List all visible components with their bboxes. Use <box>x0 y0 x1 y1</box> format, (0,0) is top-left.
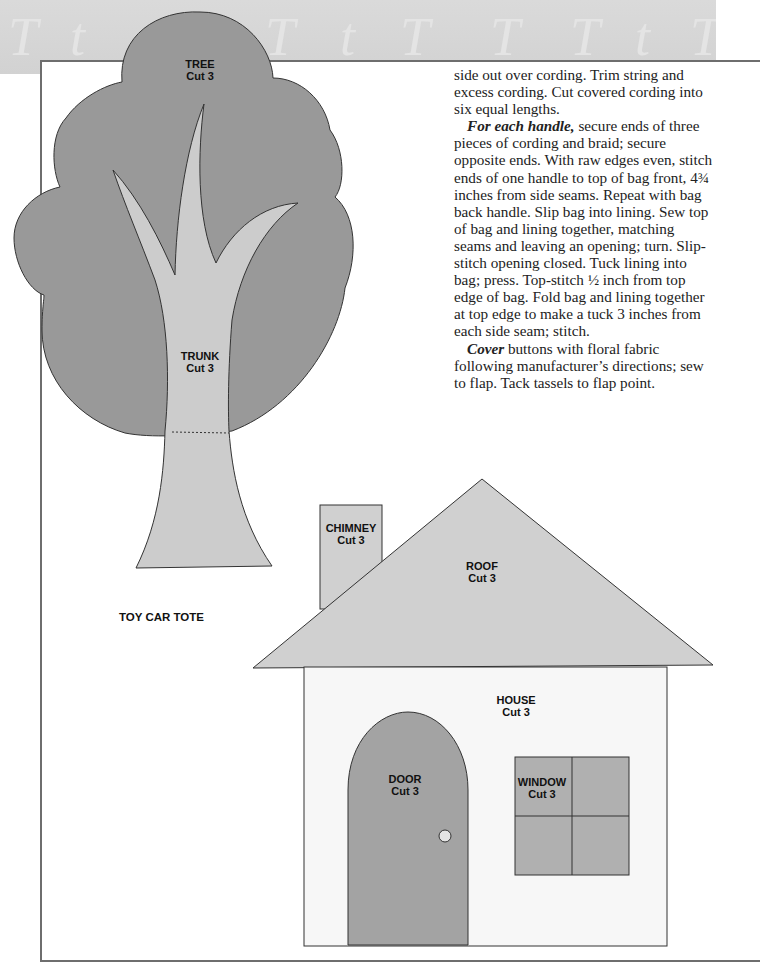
chimney-name: CHIMNEY <box>326 522 377 534</box>
instructions-lead-cover: Cover <box>467 340 504 357</box>
house-name: HOUSE <box>496 694 535 706</box>
window-label: WINDOW Cut 3 <box>518 776 566 800</box>
tree-name: TREE <box>185 58 214 70</box>
instructions-lead-handle: For each handle, <box>467 117 575 134</box>
instructions-body-handle: secure ends of three pieces of cording a… <box>454 117 712 339</box>
roof-instruction: Cut 3 <box>466 572 498 584</box>
roof-label: ROOF Cut 3 <box>466 560 498 584</box>
instructions-paragraph-2: For each handle, secure ends of three pi… <box>454 117 714 339</box>
tree-instruction: Cut 3 <box>185 70 214 82</box>
house-instruction: Cut 3 <box>496 706 535 718</box>
door-instruction: Cut 3 <box>389 785 422 797</box>
instructions-paragraph-1: side out over cording. Trim string and e… <box>454 66 714 117</box>
trunk-instruction: Cut 3 <box>181 362 220 374</box>
door-name: DOOR <box>389 773 422 785</box>
window-instruction: Cut 3 <box>518 788 566 800</box>
door-shape <box>348 712 468 945</box>
chimney-label: CHIMNEY Cut 3 <box>326 522 377 546</box>
instructions-text: side out over cording. Trim string and e… <box>454 66 714 391</box>
roof-name: ROOF <box>466 560 498 572</box>
trunk-name: TRUNK <box>181 350 220 362</box>
door-label: DOOR Cut 3 <box>389 773 422 797</box>
house-label: HOUSE Cut 3 <box>496 694 535 718</box>
chimney-instruction: Cut 3 <box>326 534 377 546</box>
page-title: TOY CAR TOTE <box>119 611 204 623</box>
instructions-paragraph-3: Cover buttons with floral fabric followi… <box>454 340 714 391</box>
door-knob-shape <box>439 830 451 842</box>
window-name: WINDOW <box>518 776 566 788</box>
trunk-label: TRUNK Cut 3 <box>181 350 220 374</box>
tree-label: TREE Cut 3 <box>185 58 214 82</box>
